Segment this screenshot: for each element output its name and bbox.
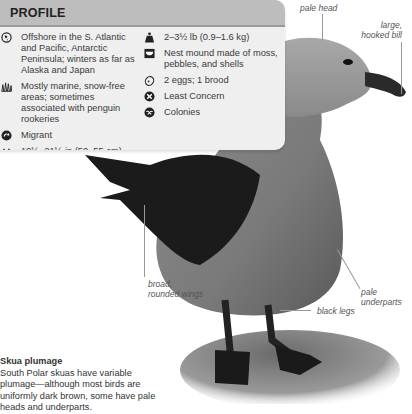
conservation-status-icon — [143, 91, 156, 102]
leader-line-wings — [144, 205, 145, 277]
colonies-icon — [143, 107, 156, 118]
leader-line-head — [322, 14, 323, 42]
caption-title: Skua plumage — [0, 356, 160, 368]
profile-row-status: Least Concern — [143, 91, 283, 102]
label-bill: large, hooked bill — [350, 20, 402, 40]
profile-row-eggs: 2 eggs; 1 brood — [143, 75, 283, 86]
profile-row-social: Colonies — [143, 107, 283, 118]
caption: Skua plumage South Polar skuas have vari… — [0, 356, 160, 414]
caption-body: South Polar skuas have variable plumage—… — [0, 368, 160, 414]
weight-icon — [143, 32, 156, 43]
profile-row-nest: Nest mound made of moss, pebbles, and sh… — [143, 48, 283, 70]
bird-bill — [365, 72, 406, 97]
leader-line-bill — [401, 42, 402, 94]
migrant-arrow-icon — [0, 130, 13, 141]
length-arrows-icon — [0, 146, 13, 150]
globe-range-icon — [0, 32, 13, 43]
leader-line-legs — [280, 310, 311, 311]
profile-row-migration: Migrant — [0, 130, 140, 141]
profile-title: PROFILE — [10, 6, 66, 20]
profile-row-weight: 2–3½ lb (0.9–1.6 kg) — [143, 32, 283, 43]
profile-header: PROFILE — [0, 0, 285, 27]
label-underparts: pale underparts — [361, 287, 412, 307]
profile-row-habitat: Mostly marine, snow-free areas; sometime… — [0, 81, 140, 125]
label-pale-head: pale head — [300, 3, 337, 13]
profile-card: PROFILE Offshore in the S. Atlantic and … — [0, 0, 285, 150]
profile-row-length: 19½–21½ in (50–55 cm) — [0, 146, 140, 150]
label-wings: broad, rounded wings — [148, 279, 203, 299]
profile-row-range: Offshore in the S. Atlantic and Pacific,… — [0, 32, 140, 76]
nest-icon — [143, 48, 156, 59]
profile-right-column: 2–3½ lb (0.9–1.6 kg) Nest mound made of … — [140, 32, 283, 150]
egg-icon — [143, 75, 156, 86]
profile-left-column: Offshore in the S. Atlantic and Pacific,… — [0, 32, 140, 150]
label-legs: black legs — [317, 306, 355, 316]
habitat-grass-icon — [0, 81, 13, 92]
